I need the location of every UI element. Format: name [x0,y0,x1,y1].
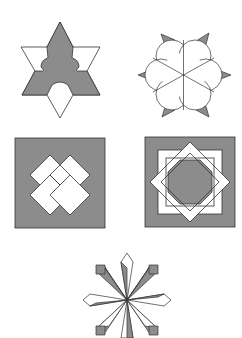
figure-canvas [0,0,242,338]
snowflake-crystals [83,253,171,338]
star-hexagram [21,22,100,118]
interlaced-squares [15,138,105,228]
flower-rosette [138,33,231,117]
octagram-interlace [145,137,235,227]
